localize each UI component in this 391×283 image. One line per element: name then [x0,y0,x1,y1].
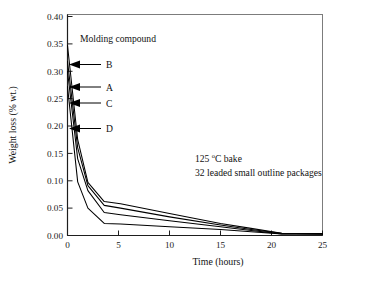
y-tick-label: 0.35 [47,39,63,49]
series-label-B: B [106,59,112,70]
x-tick-label: 25 [318,240,328,250]
x-tick-labels: 0 5 10 15 20 25 [65,240,327,250]
arrow-head-icon [69,61,80,69]
series-label-A: A [106,82,113,93]
series-label-C: C [106,98,112,109]
annotation-bake-temp: 125 oC bake [195,152,242,164]
y-tick-labels: 0.00 0.05 0.10 0.15 0.20 0.25 0.30 0.35 … [47,12,63,241]
x-tick-label: 20 [267,240,277,250]
arrow-label-C: C [69,98,112,109]
annotation-bake-post: C bake [215,153,242,164]
legend-title: Molding compound [80,33,156,44]
y-tick-label: 0.30 [47,67,63,77]
y-tick-label: 0.25 [47,94,63,104]
x-tick-label: 0 [65,240,70,250]
x-tick-label: 15 [216,240,226,250]
annotation-package-count: 32 leaded small outline packages [195,167,322,178]
series-label-D: D [106,123,113,134]
arrow-label-A: A [69,82,113,93]
data-curves [68,46,323,234]
y-tick-label: 0.15 [47,149,63,159]
y-tick-label: 0.20 [47,121,63,131]
annotation-bake-pre: 125 [195,153,212,164]
x-axis-title: Time (hours) [192,256,243,268]
weight-loss-plot: 0.00 0.05 0.10 0.15 0.20 0.25 0.30 0.35 … [0,0,391,283]
x-tick-label: 10 [165,240,175,250]
y-tick-label: 0.00 [47,231,63,241]
y-tick-label: 0.05 [47,203,63,213]
x-tick-label: 5 [116,240,121,250]
y-axis-title: Weight loss (% wt.) [7,86,19,164]
y-tick-label: 0.10 [47,176,63,186]
y-tick-label: 0.40 [47,12,63,22]
chart-figure: 0.00 0.05 0.10 0.15 0.20 0.25 0.30 0.35 … [0,0,391,283]
arrow-label-B: B [69,59,112,70]
plot-annotations: 125 oC bake 32 leaded small outline pack… [195,152,322,178]
